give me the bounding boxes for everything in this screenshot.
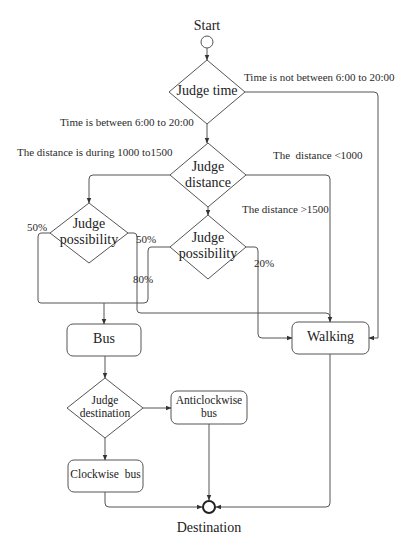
edge-label-time-between: Time is between 6:00 to 20:00 <box>60 116 194 128</box>
start-label: Start <box>187 18 227 34</box>
judge-time-label: Judge time <box>169 83 245 99</box>
anticlockwise-bus-line2: bus <box>171 407 247 420</box>
destination-label: Destination <box>169 520 249 536</box>
judge-possibility-left-label: Judge possibility <box>50 216 128 248</box>
judge-destination-label: Judge destination <box>67 394 143 420</box>
anticlockwise-bus-label: Anticlockwise bus <box>171 394 247 420</box>
judge-distance-line2: distance <box>170 175 246 191</box>
judge-possibility-right-line2: possibility <box>170 246 246 262</box>
anticlockwise-bus-line1: Anticlockwise <box>171 394 247 407</box>
judge-destination-line1: Judge <box>67 394 143 407</box>
bus-label: Bus <box>67 331 141 347</box>
clockwise-bus-label: Clockwise bus <box>68 468 143 481</box>
judge-possibility-right-line1: Judge <box>170 230 246 246</box>
edge-label-distance-during: The distance is during 1000 to1500 <box>17 146 173 158</box>
judge-possibility-left-line1: Judge <box>50 216 128 232</box>
edge-label-right-20: 20% <box>254 257 274 269</box>
edge-label-right-80: 80% <box>133 273 153 285</box>
edge-label-time-not-between: Time is not between 6:00 to 20:00 <box>244 71 395 83</box>
walking-label: Walking <box>292 329 369 345</box>
edge-label-left-50-b: 50% <box>136 233 156 245</box>
judge-destination-line2: destination <box>67 407 143 420</box>
judge-possibility-left-line2: possibility <box>50 232 128 248</box>
destination-node-icon <box>203 501 215 513</box>
judge-distance-label: Judge distance <box>170 159 246 191</box>
start-node-icon <box>201 36 213 48</box>
edge-label-distance-gt-1500: The distance >1500 <box>242 203 329 215</box>
edge-label-distance-lt-1000: The distance <1000 <box>273 149 363 161</box>
edge-label-left-50-a: 50% <box>27 221 47 233</box>
judge-distance-line1: Judge <box>170 159 246 175</box>
judge-possibility-right-label: Judge possibility <box>170 230 246 262</box>
